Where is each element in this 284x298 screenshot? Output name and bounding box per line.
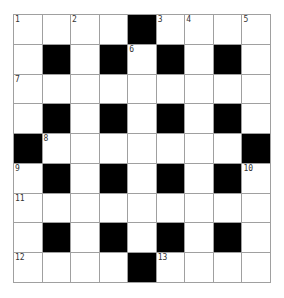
answer-cell[interactable] <box>13 44 42 74</box>
answer-cell[interactable] <box>42 14 71 44</box>
answer-cell[interactable] <box>127 74 156 104</box>
clue-number: 5 <box>243 15 248 25</box>
answer-cell[interactable] <box>213 14 242 44</box>
clue-number: 4 <box>186 15 191 25</box>
answer-cell[interactable] <box>99 133 128 163</box>
black-square <box>156 222 185 252</box>
answer-cell[interactable] <box>213 252 242 282</box>
answer-cell[interactable] <box>70 133 99 163</box>
black-square <box>156 103 185 133</box>
black-square <box>213 163 242 193</box>
clue-number: 2 <box>72 15 77 25</box>
answer-cell[interactable] <box>42 193 71 223</box>
answer-cell[interactable] <box>184 44 213 74</box>
answer-cell[interactable] <box>99 193 128 223</box>
black-square <box>42 103 71 133</box>
clue-number: 8 <box>44 134 49 144</box>
answer-cell[interactable] <box>184 222 213 252</box>
answer-cell[interactable] <box>99 252 128 282</box>
answer-cell[interactable]: 7 <box>13 74 42 104</box>
answer-cell[interactable] <box>70 252 99 282</box>
black-square <box>99 44 128 74</box>
answer-cell[interactable] <box>127 163 156 193</box>
answer-cell[interactable]: 9 <box>13 163 42 193</box>
crossword-grid: 12345678910111213 <box>13 14 271 283</box>
clue-number: 6 <box>129 45 134 55</box>
answer-cell[interactable] <box>184 163 213 193</box>
answer-cell[interactable] <box>99 74 128 104</box>
answer-cell[interactable] <box>70 74 99 104</box>
answer-cell[interactable] <box>127 193 156 223</box>
black-square <box>127 14 156 44</box>
answer-cell[interactable] <box>156 133 185 163</box>
answer-cell[interactable] <box>70 193 99 223</box>
black-square <box>156 44 185 74</box>
clue-number: 3 <box>158 15 163 25</box>
answer-cell[interactable]: 4 <box>184 14 213 44</box>
black-square <box>99 163 128 193</box>
answer-cell[interactable] <box>13 222 42 252</box>
answer-cell[interactable] <box>70 222 99 252</box>
answer-cell[interactable] <box>70 103 99 133</box>
clue-number: 1 <box>15 15 20 25</box>
black-square <box>42 44 71 74</box>
answer-cell[interactable] <box>241 44 270 74</box>
black-square <box>13 133 42 163</box>
answer-cell[interactable] <box>70 44 99 74</box>
answer-cell[interactable]: 5 <box>241 14 270 44</box>
black-square <box>42 222 71 252</box>
clue-number: 10 <box>243 164 253 174</box>
answer-cell[interactable] <box>241 222 270 252</box>
black-square <box>42 163 71 193</box>
answer-cell[interactable] <box>42 252 71 282</box>
answer-cell[interactable] <box>184 133 213 163</box>
answer-cell[interactable] <box>241 103 270 133</box>
clue-number: 13 <box>158 253 168 263</box>
answer-cell[interactable]: 6 <box>127 44 156 74</box>
answer-cell[interactable] <box>156 74 185 104</box>
black-square <box>127 252 156 282</box>
clue-number: 9 <box>15 164 20 174</box>
black-square <box>99 222 128 252</box>
answer-cell[interactable]: 11 <box>13 193 42 223</box>
answer-cell[interactable]: 8 <box>42 133 71 163</box>
answer-cell[interactable] <box>127 133 156 163</box>
answer-cell[interactable] <box>241 74 270 104</box>
answer-cell[interactable] <box>127 103 156 133</box>
black-square <box>156 163 185 193</box>
answer-cell[interactable] <box>156 193 185 223</box>
answer-cell[interactable] <box>42 74 71 104</box>
black-square <box>213 103 242 133</box>
answer-cell[interactable]: 13 <box>156 252 185 282</box>
answer-cell[interactable] <box>241 252 270 282</box>
black-square <box>241 133 270 163</box>
answer-cell[interactable] <box>213 74 242 104</box>
answer-cell[interactable]: 12 <box>13 252 42 282</box>
answer-cell[interactable] <box>70 163 99 193</box>
answer-cell[interactable] <box>184 74 213 104</box>
answer-cell[interactable]: 1 <box>13 14 42 44</box>
black-square <box>99 103 128 133</box>
answer-cell[interactable] <box>184 193 213 223</box>
answer-cell[interactable] <box>13 103 42 133</box>
answer-cell[interactable] <box>213 193 242 223</box>
answer-cell[interactable] <box>99 14 128 44</box>
clue-number: 7 <box>15 75 20 85</box>
black-square <box>213 44 242 74</box>
answer-cell[interactable]: 10 <box>241 163 270 193</box>
answer-cell[interactable] <box>184 252 213 282</box>
answer-cell[interactable] <box>127 222 156 252</box>
answer-cell[interactable] <box>213 133 242 163</box>
clue-number: 12 <box>15 253 25 263</box>
black-square <box>213 222 242 252</box>
answer-cell[interactable]: 2 <box>70 14 99 44</box>
answer-cell[interactable] <box>241 193 270 223</box>
clue-number: 11 <box>15 194 25 204</box>
answer-cell[interactable]: 3 <box>156 14 185 44</box>
answer-cell[interactable] <box>184 103 213 133</box>
